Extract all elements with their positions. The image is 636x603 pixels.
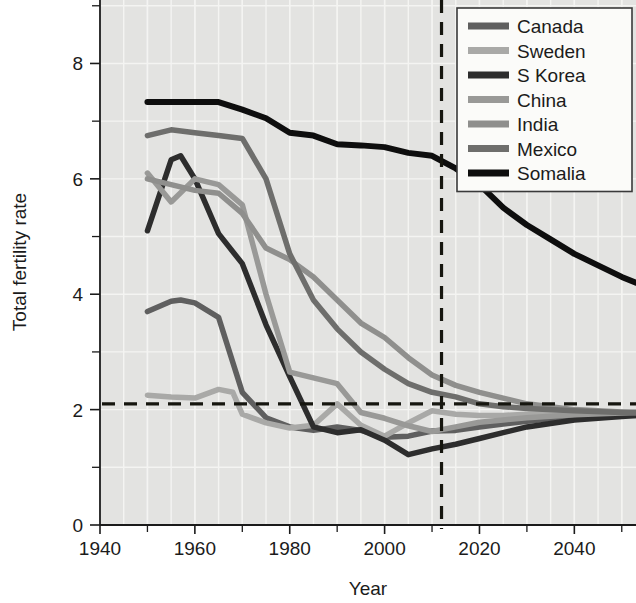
y-tick-label: 4 bbox=[72, 284, 83, 305]
legend-label-sweden: Sweden bbox=[517, 41, 586, 62]
x-tick-label: 1960 bbox=[174, 538, 216, 559]
x-tick-label: 1980 bbox=[269, 538, 311, 559]
x-tick-label: 1940 bbox=[79, 538, 121, 559]
legend-label-s-korea: S Korea bbox=[517, 65, 586, 86]
legend-label-mexico: Mexico bbox=[517, 139, 577, 160]
chart-canvas: 194019601980200020202040 02468 Year Tota… bbox=[0, 0, 636, 603]
chart-legend: CanadaSwedenS KoreaChinaIndiaMexicoSomal… bbox=[457, 8, 632, 192]
legend-label-india: India bbox=[517, 114, 559, 135]
y-tick-label: 8 bbox=[72, 53, 83, 74]
legend-label-canada: Canada bbox=[517, 16, 584, 37]
y-tick-label: 2 bbox=[72, 400, 83, 421]
x-axis-title: Year bbox=[349, 578, 388, 599]
y-tick-label: 6 bbox=[72, 169, 83, 190]
y-tick-label: 0 bbox=[72, 515, 83, 536]
fertility-rate-chart: 194019601980200020202040 02468 Year Tota… bbox=[0, 0, 636, 603]
legend-label-somalia: Somalia bbox=[517, 163, 586, 184]
legend-label-china: China bbox=[517, 90, 567, 111]
x-tick-label: 2020 bbox=[458, 538, 500, 559]
x-tick-label: 2040 bbox=[553, 538, 595, 559]
y-axis-title: Total fertility rate bbox=[9, 193, 30, 331]
x-tick-label: 2000 bbox=[363, 538, 405, 559]
